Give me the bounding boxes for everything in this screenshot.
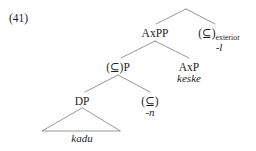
tree-diagram-figure: (41) AxPP(⊆)exterior-l(⊆)PAxPkeskeDP(⊆)-…	[0, 0, 256, 151]
subset-n-node: (⊆)-n	[141, 95, 158, 119]
subset-n-node-terminal: -n	[141, 107, 158, 119]
branch-subset-p-to-subset-n	[118, 75, 150, 92]
subset-p-node: (⊆)P	[106, 61, 130, 73]
branch-axpp-to-subset-p	[121, 41, 155, 58]
axpp-node: AxPP	[142, 27, 169, 39]
dp-expansion-triangle	[42, 108, 120, 131]
subset-exterior-node-category: (⊆)exterior	[198, 27, 240, 42]
subset-p-node-category: (⊆)P	[106, 61, 130, 73]
dp-terminal-kadu: kadu	[71, 133, 92, 145]
axp-node-terminal: keske	[177, 73, 201, 85]
dp-node-category: DP	[75, 95, 90, 107]
branch-axpp-to-axp	[155, 41, 189, 58]
branch-root-to-subset-exterior	[186, 9, 215, 24]
axp-node: AxPkeske	[177, 61, 201, 85]
dp-node: DP	[75, 95, 90, 107]
branch-root-to-axpp	[156, 9, 186, 24]
tree-branch-lines	[0, 0, 256, 151]
axpp-node-category: AxPP	[142, 27, 169, 39]
subset-exterior-node-terminal: -l	[198, 42, 240, 54]
branch-subset-p-to-dp	[85, 75, 118, 92]
subset-exterior-node: (⊆)exterior-l	[198, 27, 240, 54]
